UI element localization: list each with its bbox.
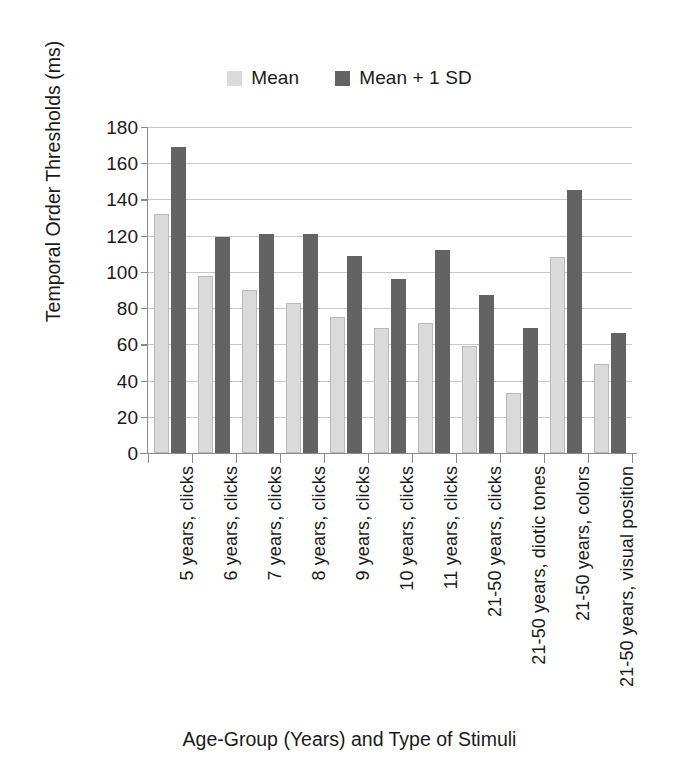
bar-mean xyxy=(550,257,566,453)
bar-group xyxy=(286,127,319,453)
x-axis-category-label: 21-50 years, visual position xyxy=(617,466,638,687)
bar-group xyxy=(506,127,539,453)
bar-mean-plus-sd xyxy=(391,279,407,453)
y-axis-tick-mark xyxy=(141,127,148,128)
bar-group xyxy=(242,127,275,453)
bar-mean xyxy=(330,317,346,453)
y-axis-tick-label: 140 xyxy=(96,190,138,209)
bar-mean xyxy=(198,276,214,453)
x-axis-category-label: 10 years, clicks xyxy=(397,466,418,591)
bar-group xyxy=(330,127,363,453)
bar-group xyxy=(550,127,583,453)
bar-mean-plus-sd xyxy=(567,190,583,453)
y-axis-tick-mark xyxy=(141,308,148,309)
bar-mean-plus-sd xyxy=(171,147,187,453)
x-axis-line xyxy=(140,453,637,454)
y-axis-tick-label: 180 xyxy=(96,118,138,137)
bar-mean-plus-sd xyxy=(611,333,627,453)
bar-group xyxy=(198,127,231,453)
bar-mean xyxy=(286,303,302,453)
x-axis-tick-mark xyxy=(148,454,149,463)
bar-mean-plus-sd xyxy=(303,234,319,453)
bar-mean xyxy=(462,346,478,453)
bar-mean xyxy=(594,364,610,453)
y-axis-tick-mark xyxy=(141,163,148,164)
bar-mean xyxy=(418,323,434,453)
x-axis-tick-mark xyxy=(456,454,457,463)
x-axis-category-label: 11 years, clicks xyxy=(441,466,462,589)
y-axis-tick-label: 160 xyxy=(96,154,138,173)
y-axis-tick-mark xyxy=(141,344,148,345)
x-axis-category-label: 8 years, clicks xyxy=(309,466,330,581)
bar-group xyxy=(374,127,407,453)
y-axis-tick-mark xyxy=(141,199,148,200)
y-axis-tick-mark xyxy=(141,381,148,382)
bar-group xyxy=(418,127,451,453)
y-axis-tick-mark xyxy=(141,236,148,237)
chart-plot-wrapper: 020406080100120140160180 5 years, clicks… xyxy=(0,0,699,782)
bar-mean xyxy=(506,393,522,453)
x-axis-tick-mark xyxy=(588,454,589,463)
x-axis-tick-mark xyxy=(544,454,545,463)
y-axis-tick-mark xyxy=(141,453,148,454)
x-axis-category-label: 9 years, clicks xyxy=(353,466,374,581)
x-axis-tick-mark xyxy=(324,454,325,463)
y-axis-tick-label: 100 xyxy=(96,263,138,282)
bar-mean-plus-sd xyxy=(435,250,451,453)
x-axis-tick-mark xyxy=(500,454,501,463)
bar-mean-plus-sd xyxy=(215,237,231,453)
x-axis-tick-mark xyxy=(412,454,413,463)
x-axis-tick-mark xyxy=(192,454,193,463)
x-axis-category-label: 6 years, clicks xyxy=(221,466,242,581)
x-axis-title: Age-Group (Years) and Type of Stimuli xyxy=(0,728,699,751)
bar-mean xyxy=(242,290,258,453)
plot-area xyxy=(148,127,632,453)
y-axis-tick-label: 80 xyxy=(96,299,138,318)
y-axis-tick-label: 20 xyxy=(96,408,138,427)
bar-mean xyxy=(374,328,390,453)
x-axis-category-label: 21-50 years, diotic tones xyxy=(529,466,550,665)
y-axis-tick-mark xyxy=(141,417,148,418)
y-axis-tick-mark xyxy=(141,272,148,273)
x-axis-tick-mark xyxy=(236,454,237,463)
y-axis-tick-labels: 020406080100120140160180 xyxy=(90,0,138,782)
y-axis-tick-label: 60 xyxy=(96,335,138,354)
bar-mean-plus-sd xyxy=(479,295,495,453)
x-axis-category-label: 21-50 years, colors xyxy=(573,466,594,621)
bar-mean-plus-sd xyxy=(259,234,275,453)
x-axis-tick-mark xyxy=(280,454,281,463)
y-axis-tick-label: 40 xyxy=(96,372,138,391)
bar-mean-plus-sd xyxy=(347,256,363,453)
y-axis-tick-label: 120 xyxy=(96,227,138,246)
bar-group xyxy=(462,127,495,453)
x-axis-tick-mark xyxy=(368,454,369,463)
x-axis-tick-mark xyxy=(632,454,633,463)
bar-mean xyxy=(154,214,170,453)
x-axis-category-label: 21-50 years, clicks xyxy=(485,466,506,617)
bar-group xyxy=(594,127,627,453)
y-axis-tick-label: 0 xyxy=(96,444,138,463)
bar-group xyxy=(154,127,187,453)
x-axis-category-label: 7 years, clicks xyxy=(265,466,286,581)
bar-mean-plus-sd xyxy=(523,328,539,453)
x-axis-category-label: 5 years, clicks xyxy=(177,466,198,581)
